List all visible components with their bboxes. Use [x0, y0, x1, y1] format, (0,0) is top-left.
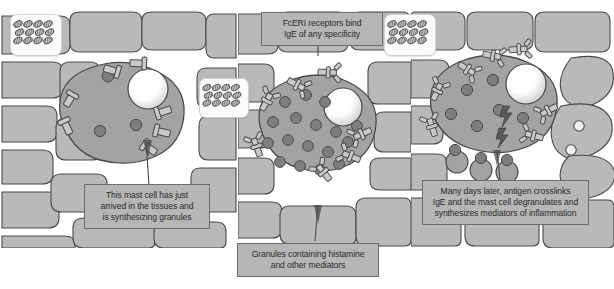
caption-bottom-line-1: Granules containing histamine — [242, 249, 374, 260]
caption-left-line-2: arrived in the tissues and — [89, 201, 205, 212]
caption-right-line-3: synthesizes mediators of inflammation — [427, 208, 584, 219]
granule-stack-icon-middle — [199, 78, 249, 118]
caption-right-line-2: IgE and the mast cell degranulates and — [427, 197, 584, 208]
caption-right: Many days later, antigen crosslinks IgE … — [422, 180, 589, 225]
granule-stack-icon-left — [10, 14, 62, 56]
caption-right-line-1: Many days later, antigen crosslinks — [427, 186, 584, 197]
figure-canvas: This mast cell has just arrived in the t… — [0, 0, 614, 289]
caption-bottom-center: Granules containing histamine and other … — [237, 243, 379, 277]
caption-top-line-1: FcERI receptors bind — [266, 18, 378, 29]
caption-left-line-1: This mast cell has just — [89, 190, 205, 201]
caption-left: This mast cell has just arrived in the t… — [84, 184, 210, 229]
caption-top-center: FcERI receptors bind IgE of any specific… — [261, 12, 383, 46]
caption-top-line-2: IgE of any specificity — [266, 29, 378, 40]
caption-bottom-line-2: and other mediators — [242, 260, 374, 271]
granule-stack-icon-right — [384, 14, 436, 56]
caption-left-line-3: is synthesizing granules — [89, 212, 205, 223]
